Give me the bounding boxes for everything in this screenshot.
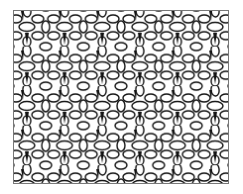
pattern-frame	[13, 10, 229, 184]
tessellation-pattern	[14, 11, 228, 183]
